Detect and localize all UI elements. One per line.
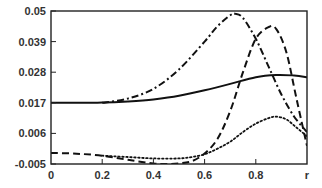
y-tick-label: 0.017 [18, 97, 46, 109]
line-chart: -0.0050.0060.0170.0280.0390.05 00.20.40.… [0, 0, 322, 188]
y-tick-label: -0.005 [15, 158, 46, 170]
x-tick-label: 0.4 [146, 169, 162, 181]
x-tick-label: 0.6 [197, 169, 212, 181]
x-axis-label: r [305, 169, 310, 181]
y-tick-label: 0.028 [18, 66, 46, 78]
x-axis: 00.20.40.60.8r [48, 159, 310, 181]
series-dash-dot-line [102, 13, 307, 132]
x-tick-label: 0.8 [248, 169, 263, 181]
plot-lines [51, 13, 307, 164]
x-tick-label: 0.2 [95, 169, 110, 181]
series-solid-line [51, 75, 307, 103]
y-tick-label: 0.05 [25, 5, 46, 17]
y-axis: -0.0050.0060.0170.0280.0390.05 [15, 5, 56, 170]
x-tick-label: 0 [48, 169, 54, 181]
plot-frame [51, 11, 307, 164]
y-tick-label: 0.006 [18, 127, 46, 139]
y-tick-label: 0.039 [18, 36, 46, 48]
